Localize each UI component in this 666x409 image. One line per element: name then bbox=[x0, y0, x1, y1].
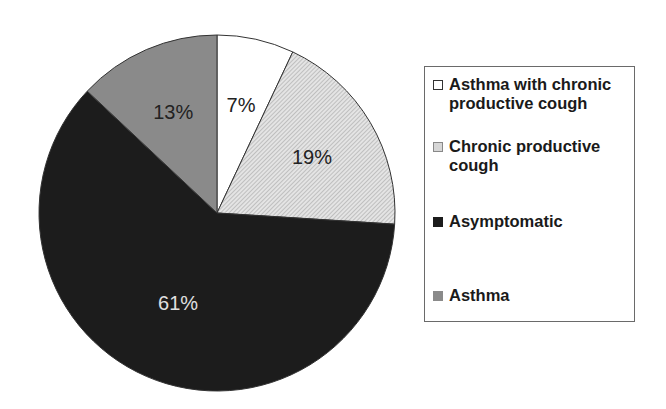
legend: Asthma with chronic productive cough Chr… bbox=[424, 66, 635, 322]
slice-label: 13% bbox=[153, 100, 193, 123]
legend-label: Asthma bbox=[449, 286, 634, 305]
slice-label: 61% bbox=[158, 291, 198, 314]
legend-item-asthma-with-cough: Asthma with chronic productive cough bbox=[433, 75, 634, 113]
legend-item-chronic-cough: Chronic productive cough bbox=[433, 137, 634, 175]
legend-label: Chronic productive cough bbox=[449, 137, 634, 175]
legend-swatch-white-icon bbox=[433, 80, 443, 90]
legend-label: Asthma with chronic productive cough bbox=[449, 75, 634, 113]
legend-item-asthma: Asthma bbox=[433, 286, 634, 305]
legend-swatch-black-icon bbox=[433, 217, 443, 227]
legend-item-asymptomatic: Asymptomatic bbox=[433, 212, 634, 231]
legend-swatch-hatched-icon bbox=[433, 142, 443, 152]
slice-label: 7% bbox=[227, 94, 256, 117]
slice-label: 19% bbox=[292, 145, 332, 168]
legend-swatch-gray-icon bbox=[433, 291, 443, 301]
legend-label: Asymptomatic bbox=[449, 212, 634, 231]
